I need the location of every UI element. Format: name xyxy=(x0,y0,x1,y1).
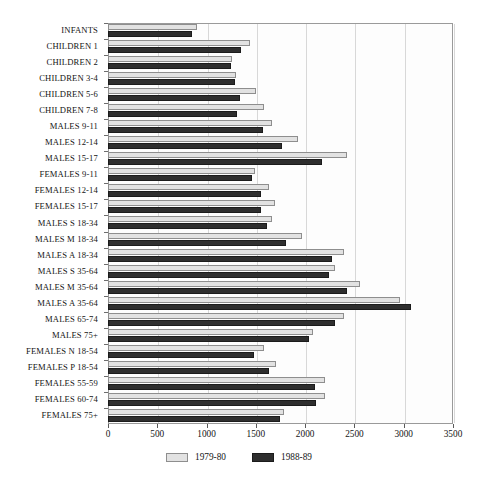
y-axis-label: MALES S 18-34 xyxy=(38,219,98,228)
x-axis-tick xyxy=(305,424,306,428)
bar-group xyxy=(108,360,453,376)
bar-group xyxy=(108,280,453,296)
bar-1979-80 xyxy=(108,345,264,351)
legend-swatch-icon xyxy=(252,453,274,462)
x-axis-tick xyxy=(354,424,355,428)
y-axis-label: MALES A 18-34 xyxy=(37,251,98,260)
bar-group xyxy=(108,167,453,183)
bar-1988-89 xyxy=(108,95,240,101)
y-axis-label: CHILDREN 1 xyxy=(47,42,98,51)
y-axis-label: MALES M 35-64 xyxy=(35,283,98,292)
bar-1979-80 xyxy=(108,281,360,287)
bar-group xyxy=(108,135,453,151)
bar-1979-80 xyxy=(108,72,236,78)
x-axis-tick xyxy=(108,424,109,428)
bar-group xyxy=(108,103,453,119)
bar-1988-89 xyxy=(108,143,282,149)
bar-1988-89 xyxy=(108,63,231,69)
x-axis-label: 2500 xyxy=(345,429,364,440)
x-axis-tick xyxy=(453,424,454,428)
bar-1988-89 xyxy=(108,304,411,310)
bar-group xyxy=(108,376,453,392)
bar-1988-89 xyxy=(108,336,309,342)
bar-1979-80 xyxy=(108,88,256,94)
bar-1979-80 xyxy=(108,40,250,46)
bar-1988-89 xyxy=(108,240,286,246)
bar-group xyxy=(108,264,453,280)
bar-1988-89 xyxy=(108,272,329,278)
bar-group xyxy=(108,248,453,264)
y-axis-label: FEMALES 12-14 xyxy=(35,186,98,195)
bar-group xyxy=(108,71,453,87)
y-axis-labels: INFANTSCHILDREN 1CHILDREN 2CHILDREN 3-4C… xyxy=(0,23,104,424)
y-axis-label: FEMALES 60-74 xyxy=(35,395,98,404)
bar-group xyxy=(108,119,453,135)
bar-1979-80 xyxy=(108,56,232,62)
bar-1988-89 xyxy=(108,159,322,165)
x-axis-tick xyxy=(404,424,405,428)
y-axis-label: MALES 12-14 xyxy=(45,138,98,147)
bar-1988-89 xyxy=(108,256,332,262)
legend-label: 1988-89 xyxy=(281,452,312,462)
bar-group xyxy=(108,328,453,344)
bar-1988-89 xyxy=(108,320,335,326)
bar-1979-80 xyxy=(108,120,272,126)
bar-group xyxy=(108,183,453,199)
bar-1979-80 xyxy=(108,104,264,110)
x-axis-label: 3500 xyxy=(444,429,463,440)
x-axis-label: 500 xyxy=(150,429,164,440)
bar-1988-89 xyxy=(108,127,263,133)
bar-1979-80 xyxy=(108,136,298,142)
legend-swatch-icon xyxy=(166,453,188,462)
y-axis-label: CHILDREN 2 xyxy=(47,58,98,67)
bar-1988-89 xyxy=(108,111,237,117)
x-axis-tick xyxy=(207,424,208,428)
y-axis-label: FEMALES 55-59 xyxy=(35,379,98,388)
bar-1979-80 xyxy=(108,393,325,399)
bar-1988-89 xyxy=(108,79,235,85)
bar-1979-80 xyxy=(108,409,284,415)
y-axis-label: MALES S 35-64 xyxy=(38,267,98,276)
x-axis-label: 2000 xyxy=(296,429,315,440)
bar-1988-89 xyxy=(108,47,241,53)
bar-1988-89 xyxy=(108,352,254,358)
x-axis-label: 0 xyxy=(106,429,111,440)
bar-group xyxy=(108,392,453,408)
bar-group xyxy=(108,232,453,248)
bar-group xyxy=(108,87,453,103)
y-axis-label: FEMALES N 18-54 xyxy=(26,347,98,356)
y-axis-label: MALES 75+ xyxy=(52,331,98,340)
bar-group xyxy=(108,39,453,55)
bar-1979-80 xyxy=(108,24,197,30)
bar-group xyxy=(108,23,453,39)
y-axis-label: FEMALES P 18-54 xyxy=(28,363,98,372)
bar-1988-89 xyxy=(108,384,315,390)
bar-1988-89 xyxy=(108,31,192,37)
y-axis-label: CHILDREN 7-8 xyxy=(39,106,98,115)
y-axis-label: MALES M 18-34 xyxy=(35,235,98,244)
bar-1988-89 xyxy=(108,416,280,422)
bar-group xyxy=(108,408,453,424)
y-axis-label: MALES 65-74 xyxy=(45,315,98,324)
bar-group xyxy=(108,296,453,312)
legend-item: 1979-80 xyxy=(166,452,226,462)
x-axis: 0500100015002000250030003500 xyxy=(108,424,453,444)
bar-1979-80 xyxy=(108,265,335,271)
bar-1988-89 xyxy=(108,368,269,374)
bar-1979-80 xyxy=(108,361,276,367)
bar-1979-80 xyxy=(108,168,255,174)
bar-1988-89 xyxy=(108,207,261,213)
bar-1979-80 xyxy=(108,152,347,158)
y-axis-label: CHILDREN 3-4 xyxy=(39,74,98,83)
bar-1988-89 xyxy=(108,400,316,406)
bar-1979-80 xyxy=(108,377,325,383)
x-axis-label: 1000 xyxy=(197,429,216,440)
bar-1979-80 xyxy=(108,233,302,239)
y-axis-label: MALES 15-17 xyxy=(45,154,98,163)
y-axis-label: FEMALES 9-11 xyxy=(39,170,98,179)
bar-1979-80 xyxy=(108,200,275,206)
y-axis-label: MALES 9-11 xyxy=(50,122,98,131)
bar-1979-80 xyxy=(108,329,313,335)
x-axis-label: 3000 xyxy=(394,429,413,440)
bar-group xyxy=(108,55,453,71)
